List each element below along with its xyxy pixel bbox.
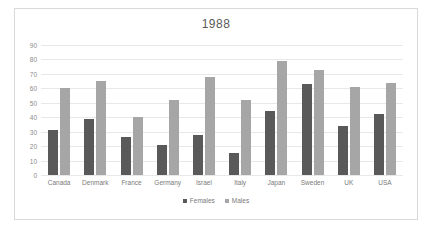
y-axis-tick-label: 0 [33, 172, 37, 179]
bar-group [113, 45, 149, 175]
bar-uk-females[interactable] [338, 126, 348, 175]
bar-group [150, 45, 186, 175]
gridline: 0 [41, 175, 403, 176]
bar-group [186, 45, 222, 175]
bar-usa-females[interactable] [374, 114, 384, 175]
chart-frame: 1988 9080706050403020100 CanadaDenmarkFr… [14, 8, 418, 220]
bar-israel-females[interactable] [193, 135, 203, 175]
bar-uk-males[interactable] [350, 87, 360, 175]
x-axis-label-denmark: Denmark [77, 179, 113, 186]
bar-sweden-females[interactable] [302, 84, 312, 175]
x-axis-label-france: France [113, 179, 149, 186]
bar-group [331, 45, 367, 175]
bar-italy-females[interactable] [229, 153, 239, 175]
chart-legend: FemalesMales [15, 197, 417, 204]
x-axis-label-germany: Germany [150, 179, 186, 186]
bar-israel-males[interactable] [205, 77, 215, 175]
bar-germany-males[interactable] [169, 100, 179, 175]
bar-canada-females[interactable] [48, 130, 58, 175]
bar-usa-males[interactable] [386, 83, 396, 175]
x-axis-label-canada: Canada [41, 179, 77, 186]
x-axis-label-japan: Japan [258, 179, 294, 186]
bar-denmark-males[interactable] [96, 81, 106, 175]
bar-group [77, 45, 113, 175]
bar-denmark-females[interactable] [84, 119, 94, 175]
chart-title: 1988 [15, 17, 417, 31]
bar-japan-females[interactable] [265, 111, 275, 175]
bar-france-females[interactable] [121, 137, 131, 175]
bar-group [41, 45, 77, 175]
y-axis-tick-label: 50 [30, 99, 37, 106]
legend-label: Females [190, 197, 215, 204]
x-axis-label-usa: USA [367, 179, 403, 186]
y-axis-tick-label: 60 [30, 85, 37, 92]
x-axis-labels: CanadaDenmarkFranceGermanyIsraelItalyJap… [41, 179, 403, 186]
x-axis-label-italy: Italy [222, 179, 258, 186]
y-axis-tick-label: 20 [30, 143, 37, 150]
bar-groups [41, 45, 403, 175]
legend-item-males[interactable]: Males [225, 197, 249, 204]
legend-label: Males [232, 197, 249, 204]
bar-sweden-males[interactable] [314, 70, 324, 175]
bar-group [367, 45, 403, 175]
legend-item-females[interactable]: Females [183, 197, 215, 204]
y-axis-tick-label: 30 [30, 128, 37, 135]
bar-germany-females[interactable] [157, 145, 167, 175]
x-axis-label-israel: Israel [186, 179, 222, 186]
y-axis-tick-label: 80 [30, 56, 37, 63]
bar-group [222, 45, 258, 175]
legend-swatch-females [183, 199, 187, 203]
y-axis-tick-label: 10 [30, 157, 37, 164]
y-axis-tick-label: 70 [30, 70, 37, 77]
bar-canada-males[interactable] [60, 88, 70, 175]
bar-italy-males[interactable] [241, 100, 251, 175]
legend-swatch-males [225, 199, 229, 203]
plot-area: 9080706050403020100 [41, 45, 403, 175]
x-axis-label-uk: UK [331, 179, 367, 186]
y-axis-tick-label: 90 [30, 42, 37, 49]
bar-group [258, 45, 294, 175]
x-axis-label-sweden: Sweden [294, 179, 330, 186]
bar-japan-males[interactable] [277, 61, 287, 175]
bar-france-males[interactable] [133, 117, 143, 175]
y-axis-tick-label: 40 [30, 114, 37, 121]
bar-group [294, 45, 330, 175]
